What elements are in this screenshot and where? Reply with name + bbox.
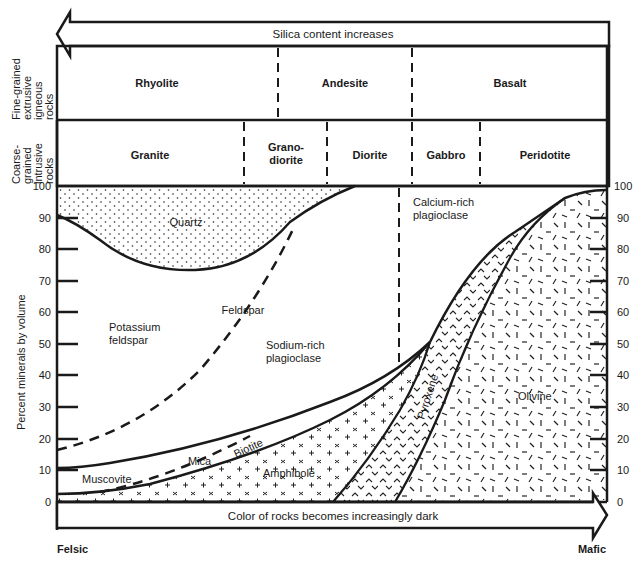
- silica-arrow-label: Silica content increases: [273, 28, 394, 40]
- quartz-region: [57, 186, 355, 270]
- svg-text:0: 0: [617, 496, 623, 508]
- svg-text:50: 50: [617, 338, 629, 350]
- svg-text:40: 40: [39, 369, 51, 381]
- svg-text:0: 0: [45, 496, 51, 508]
- svg-text:90: 90: [39, 212, 51, 224]
- label-mica: Mica: [188, 455, 212, 467]
- svg-text:60: 60: [617, 306, 629, 318]
- svg-text:100: 100: [33, 180, 51, 192]
- rock-gabbro: Gabbro: [426, 149, 465, 161]
- rock-andesite: Andesite: [322, 77, 368, 89]
- label-amphibole: Amphibole: [263, 467, 315, 479]
- label-calcium-plagioclase-1: Calcium-rich: [413, 196, 474, 208]
- rock-rhyolite: Rhyolite: [135, 77, 178, 89]
- y-axis-left-ticks: [57, 218, 78, 470]
- svg-text:40: 40: [617, 369, 629, 381]
- fine-grained-row-label: Fine-grained extrusive igneous rocks: [10, 58, 55, 120]
- label-sodium-plagioclase-1: Sodium-rich: [266, 339, 325, 351]
- svg-text:100: 100: [614, 180, 632, 192]
- svg-text:rocks: rocks: [43, 93, 55, 120]
- svg-text:10: 10: [617, 464, 629, 476]
- color-arrow-label: Color of rocks becomes increasingly dark: [228, 510, 439, 522]
- svg-text:20: 20: [617, 433, 629, 445]
- svg-text:80: 80: [39, 243, 51, 255]
- igneous-rock-diagram: Silica content increases Fine-grained ex…: [0, 0, 643, 564]
- svg-text:30: 30: [39, 401, 51, 413]
- coarse-grained-row-label: Coarse- grained intrusive rocks: [10, 143, 55, 184]
- svg-text:20: 20: [39, 433, 51, 445]
- y-axis-left-labels: 0 10 20 30 40 50 60 70 80 90 100: [33, 180, 51, 508]
- svg-text:90: 90: [617, 212, 629, 224]
- svg-text:30: 30: [617, 401, 629, 413]
- label-olivine: Olivine: [518, 390, 552, 402]
- rock-peridotite: Peridotite: [520, 149, 571, 161]
- svg-text:70: 70: [39, 275, 51, 287]
- svg-text:60: 60: [39, 306, 51, 318]
- label-potassium-feldspar-2: feldspar: [109, 334, 148, 346]
- rock-granite: Granite: [131, 149, 170, 161]
- rock-diorite: Diorite: [353, 149, 388, 161]
- label-quartz: Quartz: [169, 216, 202, 228]
- y-axis-right-labels: 0 10 20 30 40 50 60 70 80 90 100: [614, 180, 632, 508]
- label-calcium-plagioclase-2: plagioclase: [413, 209, 468, 221]
- svg-text:10: 10: [39, 464, 51, 476]
- rock-basalt: Basalt: [493, 77, 526, 89]
- svg-text:80: 80: [617, 243, 629, 255]
- label-potassium-feldspar-1: Potassium: [109, 321, 160, 333]
- svg-text:70: 70: [617, 275, 629, 287]
- rock-granodiorite-2: diorite: [269, 154, 303, 166]
- label-muscovite: Muscovite: [82, 473, 132, 485]
- label-feldspar: Feldspar: [222, 304, 265, 316]
- label-felsic: Felsic: [57, 543, 88, 555]
- svg-text:50: 50: [39, 338, 51, 350]
- silica-arrow: Silica content increases: [57, 12, 609, 56]
- y-axis-label: Percent minerals by volume: [15, 294, 27, 430]
- label-sodium-plagioclase-2: plagioclase: [266, 352, 321, 364]
- label-mafic: Mafic: [578, 543, 606, 555]
- rock-granodiorite-1: Grano-: [268, 141, 304, 153]
